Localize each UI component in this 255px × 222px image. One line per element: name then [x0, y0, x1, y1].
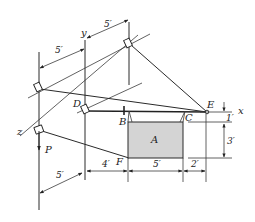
dim-label-bottom-left-5: 5′: [56, 170, 64, 180]
label-C: C: [185, 112, 193, 123]
dim-label-3: 3′: [227, 136, 235, 146]
label-x: x: [238, 105, 244, 116]
label-F: F: [115, 156, 124, 167]
dim-label-2: 2′: [190, 159, 199, 169]
dim-label-bottom-5: 5′: [153, 159, 161, 169]
label-z: z: [16, 126, 23, 137]
statics-diagram: y x z D B C E F A P 5′ 5′ 5′ 4′ 5′ 2′ 1′…: [0, 0, 255, 222]
dim-label-top-right-5: 5′: [104, 19, 112, 29]
hanger-B: [129, 111, 132, 122]
dim-label-1: 1′: [226, 113, 234, 123]
bracket-D: [81, 104, 90, 114]
bracket-left-upper: [34, 82, 43, 92]
cable-top-to-E: [131, 45, 207, 112]
label-E: E: [206, 99, 215, 110]
dim-label-top-left-5: 5′: [55, 45, 63, 55]
label-P: P: [44, 144, 52, 155]
label-A: A: [150, 134, 158, 145]
dim-label-4: 4′: [101, 159, 110, 169]
label-D: D: [72, 98, 81, 109]
label-y: y: [80, 27, 87, 38]
label-B: B: [118, 116, 126, 127]
